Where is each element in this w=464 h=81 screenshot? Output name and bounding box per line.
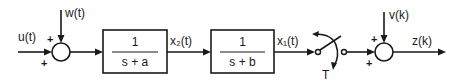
output-label: z(k) xyxy=(412,34,432,48)
transfer-block-2: 1 s + b xyxy=(211,30,274,73)
block-diagram: u(t) w(t) + + 1 s + a x₂(t) 1 s + b x₁( xyxy=(0,0,464,81)
arrow-head-icon xyxy=(367,49,375,56)
state-x1-signal: x₁(t) xyxy=(274,34,315,56)
block2-numerator: 1 xyxy=(239,35,246,49)
sampler-switch: T xyxy=(312,31,347,81)
sum1-top-sign: + xyxy=(47,33,53,45)
v-label: v(k) xyxy=(389,8,409,22)
input-label: u(t) xyxy=(18,30,36,44)
w-label: w(t) xyxy=(64,6,85,20)
arrow-head-icon xyxy=(44,49,52,56)
sum2-top-sign: + xyxy=(371,33,377,45)
measurement-noise-v-signal: v(k) xyxy=(381,8,410,43)
output-z-signal: z(k) xyxy=(393,34,446,56)
sampling-period-label: T xyxy=(322,68,330,81)
state-x2-signal: x₂(t) xyxy=(167,34,211,56)
arrow-head-icon xyxy=(58,35,65,43)
sum-circle-icon xyxy=(375,43,393,61)
sum-circle-icon xyxy=(52,43,70,61)
arrow-head-icon xyxy=(203,49,211,56)
block1-denominator: s + a xyxy=(122,55,149,69)
transfer-block-1: 1 s + a xyxy=(103,30,167,73)
switch-terminal-right-icon xyxy=(342,50,347,55)
x2-label: x₂(t) xyxy=(170,34,192,48)
x1-label: x₁(t) xyxy=(277,34,298,48)
sum2-left-sign: + xyxy=(366,57,372,69)
arrow-head-icon xyxy=(438,49,446,56)
switch-terminal-left-icon xyxy=(316,50,321,55)
arrow-head-icon xyxy=(312,31,319,37)
sum1-left-sign: + xyxy=(41,57,47,69)
arrow-head-icon xyxy=(95,49,103,56)
block2-denominator: s + b xyxy=(229,55,256,69)
block1-numerator: 1 xyxy=(132,35,139,49)
arrow-head-icon xyxy=(331,62,337,70)
arrow-head-icon xyxy=(307,49,315,56)
process-noise-w-signal: w(t) xyxy=(58,6,86,43)
arrow-head-icon xyxy=(381,35,388,43)
